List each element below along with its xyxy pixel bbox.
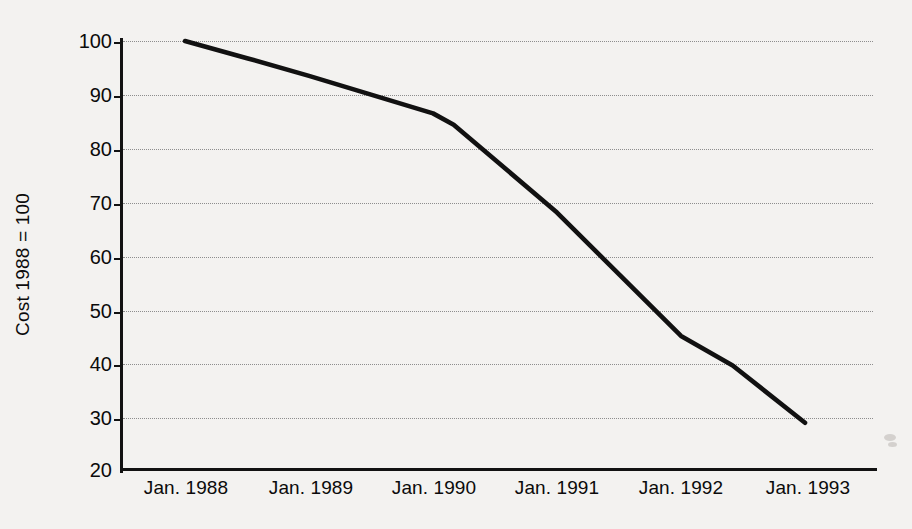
scan-speck <box>884 434 896 441</box>
y-tick-label-70: 70 <box>54 193 112 213</box>
y-axis-title: Cost 1988 = 100 <box>0 0 58 529</box>
y-tick-label-100: 100 <box>54 31 112 51</box>
y-tick-label-60: 60 <box>54 247 112 267</box>
y-tick-label-50: 50 <box>54 301 112 321</box>
y-tick-label-20: 20 <box>54 460 112 480</box>
x-tick-label-jan-1988: Jan. 1988 <box>121 478 251 497</box>
scan-speck <box>888 442 897 447</box>
line-chart-figure: Cost 1988 = 100 100 90 80 70 60 50 40 30… <box>0 0 912 529</box>
y-tick-label-30: 30 <box>54 408 112 428</box>
x-tick-label-jan-1992: Jan. 1992 <box>616 478 746 497</box>
x-tick-label-jan-1990: Jan. 1990 <box>369 478 499 497</box>
y-tick-label-90: 90 <box>54 85 112 105</box>
x-tick-label-jan-1991: Jan. 1991 <box>492 478 622 497</box>
y-tick-label-40: 40 <box>54 354 112 374</box>
x-tick-label-jan-1993: Jan. 1993 <box>743 478 873 497</box>
x-tick-label-jan-1989: Jan. 1989 <box>246 478 376 497</box>
cost-index-polyline <box>185 41 805 423</box>
data-series-line <box>123 41 873 470</box>
y-axis-title-text: Cost 1988 = 100 <box>12 193 34 336</box>
y-tick-label-80: 80 <box>54 139 112 159</box>
plot-area <box>123 41 873 470</box>
